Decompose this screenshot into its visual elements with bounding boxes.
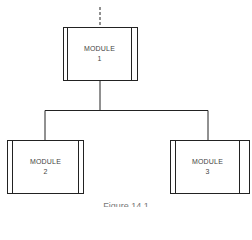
figure-caption: Figure 14.1 [0,201,252,207]
module-3-label: MODULE 3 [176,157,239,177]
module-3-number: 3 [176,167,239,177]
module-3-title: MODULE [176,157,239,167]
module-1-label: MODULE 1 [68,44,131,64]
module-2-label: MODULE 2 [13,157,78,177]
module-1-number: 1 [68,54,131,64]
module-2-title: MODULE [13,157,78,167]
module-2-number: 2 [13,167,78,177]
module-1-title: MODULE [68,44,131,54]
